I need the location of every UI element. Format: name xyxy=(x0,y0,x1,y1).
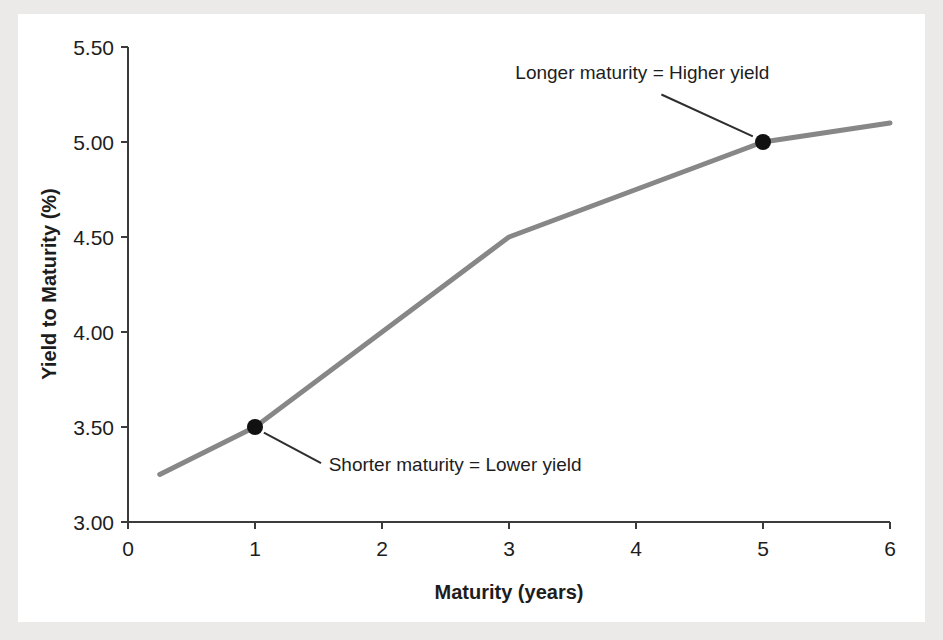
x-axis-ticks xyxy=(128,522,890,529)
x-tick-label-5: 5 xyxy=(757,537,769,560)
shorter-maturity-annotation-label: Shorter maturity = Lower yield xyxy=(329,454,582,475)
x-tick-label-6: 6 xyxy=(884,537,896,560)
x-axis-title: Maturity (years) xyxy=(435,581,584,603)
longer-maturity-annotation-leader xyxy=(661,95,752,137)
y-tick-label-3-00: 3.00 xyxy=(73,511,114,534)
y-tick-label-3-50: 3.50 xyxy=(73,416,114,439)
longer-maturity-annotation-label: Longer maturity = Higher yield xyxy=(515,62,769,83)
yield-curve-chart: 5.50 5.00 4.50 4.00 3.50 3.00 0 1 xyxy=(18,14,925,622)
y-tick-label-5-00: 5.00 xyxy=(73,131,114,154)
x-axis-tick-labels: 0 1 2 3 4 5 6 xyxy=(122,537,896,560)
x-tick-label-0: 0 xyxy=(122,537,134,560)
x-tick-label-4: 4 xyxy=(630,537,642,560)
shorter-maturity-annotation-leader xyxy=(264,433,321,463)
x-tick-label-2: 2 xyxy=(376,537,388,560)
y-tick-label-4-00: 4.00 xyxy=(73,321,114,344)
data-point-markers xyxy=(247,134,771,435)
y-axis-ticks xyxy=(121,47,128,522)
y-axis-tick-labels: 5.50 5.00 4.50 4.00 3.50 3.00 xyxy=(73,36,114,534)
annotation-leader-lines xyxy=(264,95,753,464)
x-tick-label-3: 3 xyxy=(503,537,515,560)
axis-frame xyxy=(128,47,890,522)
shorter-maturity-point xyxy=(247,419,263,435)
longer-maturity-point xyxy=(755,134,771,150)
x-tick-label-1: 1 xyxy=(249,537,261,560)
y-tick-label-4-50: 4.50 xyxy=(73,226,114,249)
y-tick-label-5-50: 5.50 xyxy=(73,36,114,59)
figure-card: 5.50 5.00 4.50 4.00 3.50 3.00 0 1 xyxy=(18,14,925,622)
chart-svg: 5.50 5.00 4.50 4.00 3.50 3.00 0 1 xyxy=(18,14,925,622)
yield-curve-line xyxy=(160,123,890,475)
y-axis-title: Yield to Maturity (%) xyxy=(38,188,60,379)
